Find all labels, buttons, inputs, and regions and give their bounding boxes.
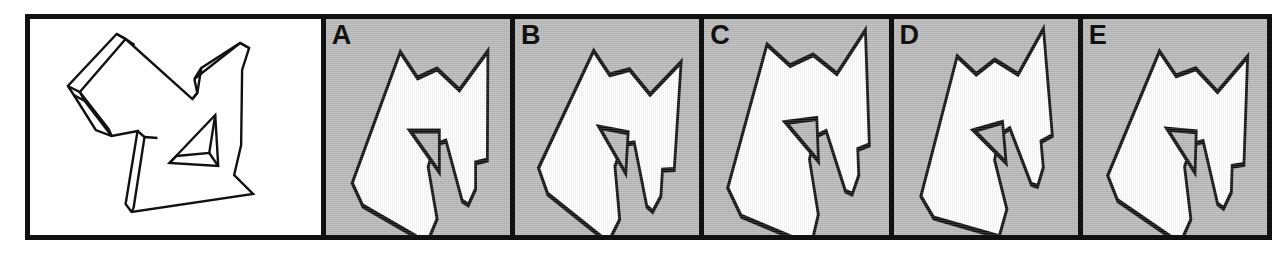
option-e-silhouette	[1083, 19, 1267, 235]
option-label-b: B	[521, 21, 541, 49]
reference-panel	[30, 19, 321, 235]
option-c-shape	[723, 30, 874, 235]
option-panel-e[interactable]: E	[1078, 19, 1267, 235]
option-e-shape	[1106, 44, 1248, 235]
option-b-shape	[535, 37, 681, 235]
option-a-shape	[352, 51, 488, 235]
option-d-shape	[909, 29, 1060, 235]
option-c-silhouette	[704, 19, 888, 235]
option-label-e: E	[1089, 21, 1107, 49]
option-a-silhouette	[326, 19, 510, 235]
option-panel-a[interactable]: A	[321, 19, 510, 235]
option-b-silhouette	[515, 19, 699, 235]
option-label-a: A	[332, 21, 352, 49]
option-label-d: D	[900, 21, 920, 49]
mental-rotation-figure: A B C D	[25, 14, 1272, 240]
option-d-silhouette	[894, 19, 1078, 235]
option-panel-d[interactable]: D	[889, 19, 1078, 235]
reference-wireframe-drawing	[30, 19, 321, 235]
option-label-c: C	[710, 21, 730, 49]
option-panel-b[interactable]: B	[510, 19, 699, 235]
option-panel-c[interactable]: C	[699, 19, 888, 235]
